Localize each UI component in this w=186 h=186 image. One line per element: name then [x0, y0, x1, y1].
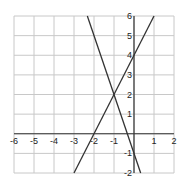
y-tick-label: 2: [127, 90, 132, 100]
x-tick-label: -6: [10, 136, 18, 146]
x-tick-label: -2: [90, 136, 98, 146]
grid-lines: [14, 16, 174, 173]
x-tick-label: -1: [110, 136, 118, 146]
y-tick-label: 4: [127, 50, 132, 60]
x-tick-label: 1: [151, 136, 156, 146]
x-tick-label: -5: [30, 136, 38, 146]
y-tick-label: 6: [127, 11, 132, 21]
y-tick-label: -2: [124, 168, 132, 178]
x-tick-label: -3: [70, 136, 78, 146]
x-tick-label: 2: [171, 136, 176, 146]
y-tick-label: 3: [127, 70, 132, 80]
y-tick-label: 5: [127, 31, 132, 41]
x-tick-label: -4: [50, 136, 58, 146]
y-tick-label: 1: [127, 109, 132, 119]
coordinate-plane-chart: -6-5-4-3-2-112-2-1123456: [0, 0, 186, 186]
y-tick-label: -1: [124, 148, 132, 158]
